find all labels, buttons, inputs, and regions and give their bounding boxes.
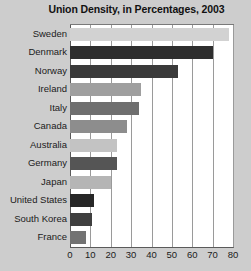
y-axis-label-australia: Australia bbox=[0, 138, 67, 151]
y-axis-label-denmark: Denmark bbox=[0, 45, 67, 58]
y-axis-label-united-states: United States bbox=[0, 193, 67, 206]
bar-japan[interactable] bbox=[70, 176, 111, 189]
x-axis-tick-40: 40 bbox=[146, 249, 157, 260]
x-axis-tick-80: 80 bbox=[228, 249, 239, 260]
y-axis-label-south-korea: South Korea bbox=[0, 212, 67, 225]
x-axis-tick-60: 60 bbox=[187, 249, 198, 260]
y-axis-label-norway: Norway bbox=[0, 64, 67, 77]
x-axis-tick-50: 50 bbox=[167, 249, 178, 260]
bar-italy[interactable] bbox=[70, 102, 139, 115]
x-axis-tick-30: 30 bbox=[126, 249, 137, 260]
chart-title: Union Density, in Percentages, 2003 bbox=[0, 3, 251, 15]
x-axis-tick-0: 0 bbox=[67, 249, 72, 260]
bar-germany[interactable] bbox=[70, 157, 117, 170]
y-axis-label-germany: Germany bbox=[0, 156, 67, 169]
bars-layer bbox=[70, 25, 233, 247]
y-axis-label-sweden: Sweden bbox=[0, 27, 67, 40]
chart-figure: Union Density, in Percentages, 2003 Swed… bbox=[0, 0, 251, 271]
bar-canada[interactable] bbox=[70, 120, 127, 133]
bar-ireland[interactable] bbox=[70, 83, 141, 96]
gridline-80 bbox=[233, 25, 234, 247]
y-axis-label-france: France bbox=[0, 230, 67, 243]
x-axis-tick-labels: 01020304050607080 bbox=[70, 249, 234, 265]
bar-france[interactable] bbox=[70, 231, 86, 244]
x-axis-tick-10: 10 bbox=[85, 249, 96, 260]
y-axis-category-labels: SwedenDenmarkNorwayIrelandItalyCanadaAus… bbox=[0, 24, 67, 246]
y-axis-label-italy: Italy bbox=[0, 101, 67, 114]
plot-area bbox=[70, 24, 234, 248]
bar-united-states[interactable] bbox=[70, 194, 94, 207]
bar-norway[interactable] bbox=[70, 65, 178, 78]
x-axis-tick-20: 20 bbox=[105, 249, 116, 260]
y-axis-label-ireland: Ireland bbox=[0, 82, 67, 95]
y-axis-label-canada: Canada bbox=[0, 119, 67, 132]
bar-australia[interactable] bbox=[70, 139, 117, 152]
bar-sweden[interactable] bbox=[70, 28, 229, 41]
bar-south-korea[interactable] bbox=[70, 213, 92, 226]
bar-denmark[interactable] bbox=[70, 46, 213, 59]
y-axis-label-japan: Japan bbox=[0, 175, 67, 188]
x-axis-tick-70: 70 bbox=[207, 249, 218, 260]
